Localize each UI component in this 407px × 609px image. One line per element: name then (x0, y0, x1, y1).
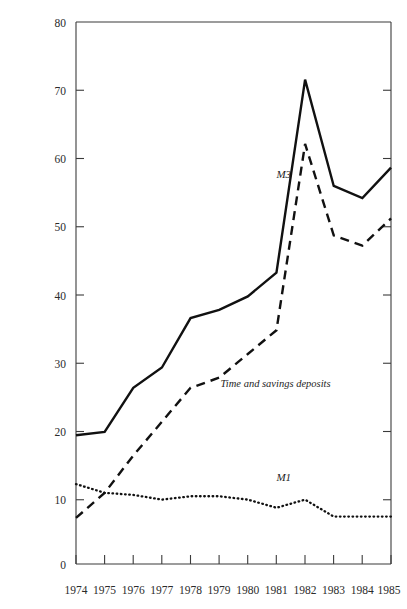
x-tick-label: 1976 (122, 584, 145, 596)
series-label-m3: M3 (275, 168, 291, 180)
data-series-group (76, 80, 391, 518)
y-tick-label: 40 (55, 290, 67, 302)
y-tick-label: 60 (55, 153, 67, 165)
x-tick-labels: 1974 1975 1976 1977 1978 1979 1980 1981 … (65, 584, 401, 596)
x-tick-label: 1978 (179, 584, 202, 596)
series-label-m1: M1 (275, 471, 291, 483)
y-tick-labels: 80 70 60 50 40 30 20 10 0 (55, 17, 67, 571)
x-tick-label: 1984 (351, 584, 374, 596)
y-tick-label: 10 (55, 494, 67, 506)
series-line-m1 (76, 484, 391, 517)
series-label-time-and-savings-deposits: Time and savings deposits (221, 378, 331, 389)
series-line-time-and-savings-deposits (76, 144, 391, 518)
y-tick-label: 0 (60, 559, 66, 571)
top-caption (0, 0, 407, 10)
y-tick-label: 30 (55, 358, 67, 370)
y-tick-label: 50 (55, 221, 67, 233)
x-tick-label: 1977 (150, 584, 173, 596)
chart-root: 80 70 60 50 40 30 20 10 0 1974 (0, 0, 407, 609)
x-tick-label: 1979 (208, 584, 231, 596)
plot-frame (76, 22, 391, 564)
x-tick-marks (76, 555, 391, 564)
x-tick-label: 1985 (378, 584, 401, 596)
x-tick-label: 1983 (322, 584, 345, 596)
monetary-aggregates-line-chart: 80 70 60 50 40 30 20 10 0 1974 (0, 0, 407, 609)
x-tick-label: 1975 (93, 584, 116, 596)
x-tick-label: 1974 (65, 584, 88, 596)
y-tick-label: 20 (55, 426, 67, 438)
y-tick-label: 80 (55, 17, 67, 29)
y-tick-label: 70 (55, 85, 67, 97)
x-tick-label: 1980 (236, 584, 259, 596)
x-tick-label: 1982 (294, 584, 317, 596)
series-annotations: M3 Time and savings deposits M1 (221, 168, 331, 483)
y-tick-marks (76, 90, 391, 500)
x-tick-label: 1981 (265, 584, 288, 596)
